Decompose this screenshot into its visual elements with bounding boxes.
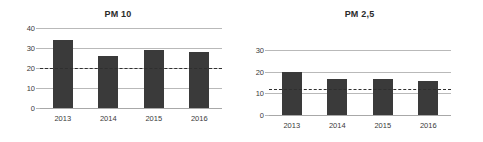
chart-title-pm25: PM 2,5 xyxy=(236,0,483,20)
xtick-label-2014: 2014 xyxy=(86,114,132,123)
bar-2013 xyxy=(282,72,302,115)
bars-layer-pm25 xyxy=(269,50,451,115)
bar-2016 xyxy=(189,52,209,108)
plot-area-pm25: 30 20 10 0 xyxy=(269,50,451,115)
bar-slot-2016 xyxy=(406,50,452,115)
chart-pm25: PM 2,5 30 20 10 0 xyxy=(236,0,483,142)
xtick-label-2016: 2016 xyxy=(177,114,223,123)
bar-2014 xyxy=(98,56,118,108)
plot-area-pm10: 40 30 20 10 0 xyxy=(40,28,222,108)
bar-2016 xyxy=(418,81,438,115)
xtick-label-2016: 2016 xyxy=(406,121,452,130)
bar-slot-2014 xyxy=(315,50,361,115)
ytick-label-10: 10 xyxy=(27,84,35,93)
xtick-label-2014: 2014 xyxy=(315,121,361,130)
ytick-label-0: 0 xyxy=(260,111,264,120)
limit-line-pm25 xyxy=(269,89,451,90)
xaxis-labels-pm10: 2013 2014 2015 2016 xyxy=(40,108,222,123)
chart-pm10: PM 10 40 30 20 10 0 xyxy=(0,0,236,142)
ytick-label-30: 30 xyxy=(256,46,264,55)
ytick-label-30: 30 xyxy=(27,44,35,53)
xtick-label-2015: 2015 xyxy=(131,114,177,123)
limit-line-pm10 xyxy=(40,68,222,69)
xaxis-labels-pm25: 2013 2014 2015 2016 xyxy=(269,115,451,130)
bar-2015 xyxy=(373,79,393,115)
ytick-label-20: 20 xyxy=(256,67,264,76)
ytick-label-10: 10 xyxy=(256,89,264,98)
bar-2014 xyxy=(327,79,347,115)
bar-slot-2013 xyxy=(269,50,315,115)
xtick-label-2015: 2015 xyxy=(360,121,406,130)
bar-2015 xyxy=(144,50,164,108)
ytick-label-20: 20 xyxy=(27,64,35,73)
chart-title-pm10: PM 10 xyxy=(0,0,236,20)
xtick-label-2013: 2013 xyxy=(269,121,315,130)
bar-2013 xyxy=(53,40,73,108)
charts-container: PM 10 40 30 20 10 0 xyxy=(0,0,483,142)
ytick-label-0: 0 xyxy=(31,104,35,113)
ytick-label-40: 40 xyxy=(27,24,35,33)
bar-slot-2015 xyxy=(360,50,406,115)
xtick-label-2013: 2013 xyxy=(40,114,86,123)
